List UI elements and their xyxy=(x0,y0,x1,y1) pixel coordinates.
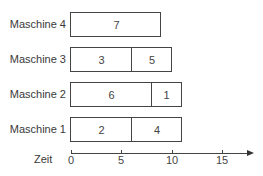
x-tick-label: 0 xyxy=(61,154,81,166)
x-axis-arrow-icon xyxy=(247,150,254,156)
machine-label: Maschine 4 xyxy=(0,18,66,30)
job-segment: 2 xyxy=(71,118,132,141)
job-segment: 7 xyxy=(71,13,162,36)
machine-bar: 7 xyxy=(70,12,161,37)
job-segment: 5 xyxy=(131,48,172,71)
x-tick-label: 10 xyxy=(162,154,182,166)
job-segment: 1 xyxy=(151,83,181,106)
job-segment: 6 xyxy=(71,83,152,106)
x-tick-label: 15 xyxy=(212,154,232,166)
machine-label: Maschine 1 xyxy=(0,123,66,135)
machine-bar: 24 xyxy=(70,117,182,142)
machine-label: Maschine 2 xyxy=(0,88,66,100)
x-tick-label: 5 xyxy=(111,154,131,166)
machine-label: Maschine 3 xyxy=(0,53,66,65)
machine-bar: 35 xyxy=(70,47,172,72)
job-segment: 3 xyxy=(71,48,132,71)
machine-bar: 61 xyxy=(70,82,182,107)
x-axis-label: Zeit xyxy=(34,153,52,165)
job-segment: 4 xyxy=(131,118,182,141)
